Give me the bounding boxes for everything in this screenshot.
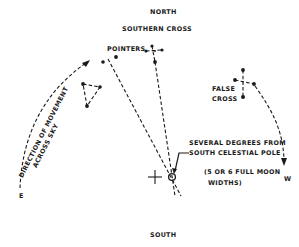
- southern-cross-star-top: [150, 44, 153, 47]
- pointer-star-2: [114, 55, 118, 59]
- label-pole-note-2: SOUTH CELESTIAL POLE: [189, 150, 281, 156]
- label-false-cross-1: FALSE: [212, 86, 235, 92]
- label-pole-note-4: WIDTHS): [208, 180, 242, 186]
- celestial-pole-cross-icon: [148, 170, 162, 184]
- label-south: SOUTH: [150, 232, 176, 238]
- triangle-constellation: [83, 84, 100, 106]
- label-pointers: POINTERS: [107, 46, 146, 52]
- false-cross-star-left: [233, 78, 237, 82]
- label-north: NORTH: [150, 9, 177, 15]
- label-false-cross-2: CROSS: [212, 96, 237, 102]
- label-pole-note-1: SEVERAL DEGREES FROM: [189, 140, 286, 146]
- label-pole-note-3: (5 OR 6 FULL MOON: [204, 169, 280, 175]
- southern-cross-axis-line: [155, 62, 175, 196]
- label-southern-cross: SOUTHERN CROSS: [122, 26, 192, 32]
- arrowhead-west: [281, 158, 287, 166]
- southern-cross-star-center: [154, 50, 156, 52]
- label-east: E: [19, 193, 24, 199]
- southern-cross-star-right: [160, 48, 163, 51]
- annotation-leader-line: [175, 153, 189, 171]
- false-cross-star-right: [252, 82, 256, 86]
- arrowhead-upper-left: [82, 60, 90, 67]
- pointers-guide-line: [108, 59, 181, 196]
- southern-cross-star-bottom: [153, 60, 157, 64]
- label-west: W: [284, 176, 291, 182]
- false-cross-star-top: [241, 68, 245, 72]
- false-cross-star-bottom: [241, 95, 245, 99]
- pointer-star-1: [101, 60, 105, 64]
